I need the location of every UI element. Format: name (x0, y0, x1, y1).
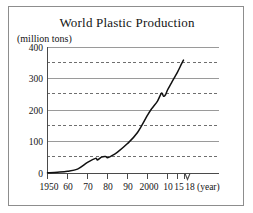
y-tick-label-400: 400 (29, 43, 44, 53)
data-series-line (48, 60, 184, 173)
x-tick-label-1980: 80 (103, 182, 113, 192)
y-tick-label-300: 300 (29, 74, 44, 84)
x-tick-label-2000: 2000 (140, 182, 159, 192)
y-tick-label-0: 0 (38, 169, 43, 179)
y-tick-label-100: 100 (29, 137, 44, 147)
y-tick-label-200: 200 (29, 106, 44, 116)
x-tick-label-2010: 10 (163, 182, 173, 192)
x-tick-label-2015: 15 (174, 182, 184, 192)
x-axis-unit-label: (year) (197, 182, 220, 193)
x-tick-label-2018: 18 (185, 182, 195, 192)
chart-frame: World Plastic Production (million tons) … (8, 6, 244, 206)
x-tick-label-1970: 70 (83, 182, 93, 192)
x-tick-label-1990: 90 (123, 182, 133, 192)
plot-area: 400 300 200 100 0 1950 60 70 80 90 2000 … (9, 7, 245, 207)
x-tick-label-1950: 1950 (40, 182, 59, 192)
x-tick-label-1960: 60 (63, 182, 73, 192)
axis-break-notch (185, 174, 190, 180)
